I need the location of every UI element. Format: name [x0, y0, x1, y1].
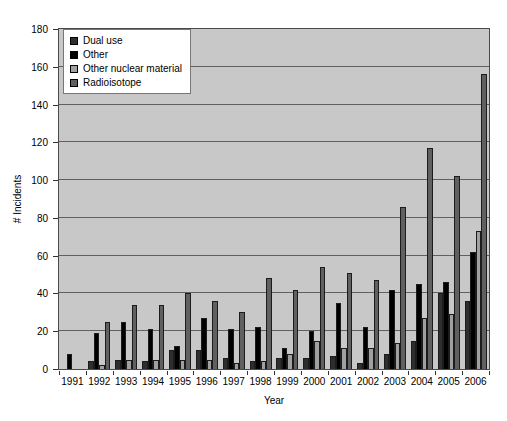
legend-label-other: Other [83, 48, 108, 61]
bar-group-2000 [301, 29, 328, 369]
chart-figure: # Incidents Dual use Other Other nuclear… [0, 0, 507, 421]
x-axis-tick [328, 371, 329, 375]
bar-group-1998 [247, 29, 274, 369]
bar-group-2003 [382, 29, 409, 369]
x-axis-tick [220, 371, 221, 375]
legend-swatch-other [70, 51, 78, 59]
y-tick-label: 20 [0, 326, 48, 337]
bar-group-2004 [408, 29, 435, 369]
y-axis-tick [53, 218, 58, 219]
y-tick-label: 80 [0, 213, 48, 224]
x-axis-tick [167, 371, 168, 375]
x-axis-tick [408, 371, 409, 375]
y-tick-label: 0 [0, 364, 48, 375]
y-axis-tick [53, 293, 58, 294]
x-tick-label: 2006 [459, 376, 493, 387]
y-axis-tick [53, 105, 58, 106]
radioisotope-bar [400, 207, 406, 369]
radioisotope-bar [454, 176, 460, 369]
radioisotope-bar [374, 280, 380, 369]
bar-group-2006 [462, 29, 489, 369]
radioisotope-bar [347, 273, 353, 369]
bar-group-1996 [193, 29, 220, 369]
x-axis-tick [59, 371, 60, 375]
x-axis-tick [435, 371, 436, 375]
legend-label-radioisotope: Radioisotope [83, 76, 141, 89]
y-axis-tick [53, 369, 58, 370]
other-bar [94, 333, 100, 369]
x-axis-tick [489, 371, 490, 375]
radioisotope-bar [266, 278, 272, 369]
radioisotope-bar [320, 267, 326, 369]
x-axis-tick [140, 371, 141, 375]
radioisotope-bar [105, 322, 111, 369]
y-tick-label: 60 [0, 251, 48, 262]
y-tick-label: 160 [0, 62, 48, 73]
legend-item-other: Other [70, 48, 182, 61]
bar-group-2005 [435, 29, 462, 369]
x-axis-title: Year [58, 395, 490, 406]
x-axis-tick [193, 371, 194, 375]
radioisotope-bar [427, 148, 433, 369]
y-tick-label: 40 [0, 288, 48, 299]
radioisotope-bar [185, 293, 191, 369]
radioisotope-bar [293, 290, 299, 369]
radioisotope-bar [481, 74, 487, 369]
radioisotope-bar [212, 301, 218, 369]
legend: Dual use Other Other nuclear material Ra… [63, 29, 191, 94]
y-axis-tick [53, 331, 58, 332]
x-axis-tick [113, 371, 114, 375]
legend-swatch-dual-use [70, 37, 78, 45]
x-axis-tick [355, 371, 356, 375]
legend-swatch-radioisotope [70, 79, 78, 87]
radioisotope-bar [132, 305, 138, 369]
legend-label-other-nuclear-material: Other nuclear material [83, 62, 182, 75]
bar-group-2002 [355, 29, 382, 369]
y-axis-tick [53, 142, 58, 143]
y-axis-tick [53, 256, 58, 257]
legend-item-other-nuclear-material: Other nuclear material [70, 62, 182, 75]
legend-swatch-other-nuclear-material [70, 65, 78, 73]
x-axis-tick [382, 371, 383, 375]
x-axis-tick [247, 371, 248, 375]
y-tick-label: 140 [0, 100, 48, 111]
bar-group-1997 [220, 29, 247, 369]
y-axis-tick [53, 67, 58, 68]
legend-item-dual-use: Dual use [70, 34, 182, 47]
radioisotope-bar [239, 312, 245, 369]
y-tick-label: 180 [0, 24, 48, 35]
radioisotope-bar [159, 305, 165, 369]
x-axis-tick [462, 371, 463, 375]
y-tick-label: 120 [0, 137, 48, 148]
legend-label-dual-use: Dual use [83, 34, 122, 47]
other-bar [67, 354, 73, 369]
y-axis-tick [53, 180, 58, 181]
x-axis-tick [274, 371, 275, 375]
bar-group-1999 [274, 29, 301, 369]
bar-group-2001 [328, 29, 355, 369]
y-tick-label: 100 [0, 175, 48, 186]
legend-item-radioisotope: Radioisotope [70, 76, 182, 89]
x-axis-tick [301, 371, 302, 375]
x-axis-tick [86, 371, 87, 375]
y-axis-tick [53, 29, 58, 30]
plot-area: Dual use Other Other nuclear material Ra… [58, 28, 490, 370]
